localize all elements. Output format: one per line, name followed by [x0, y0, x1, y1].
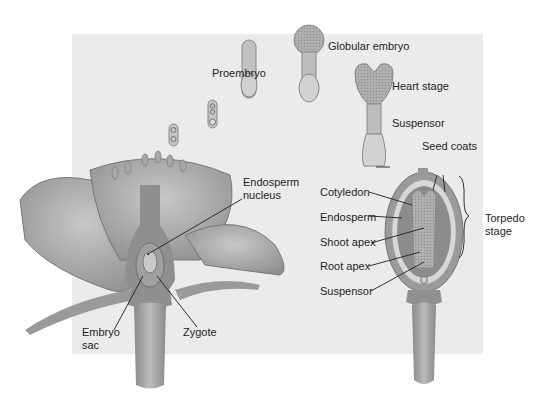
label-embryo-sac: Embryo sac [82, 326, 118, 352]
label-proembryo: Proembryo [212, 67, 266, 80]
label-suspensor-heart: Suspensor [392, 117, 445, 130]
label-shoot-apex: Shoot apex [320, 236, 376, 249]
label-heart-stage: Heart stage [392, 80, 449, 93]
label-root-apex: Root apex [320, 260, 370, 273]
label-suspensor-torpedo: Suspensor [320, 285, 373, 298]
label-torpedo-stage: Torpedo stage [485, 212, 533, 238]
label-seed-coats: Seed coats [422, 140, 477, 153]
proembryo-4cell [208, 100, 217, 128]
label-globular-embryo: Globular embryo [328, 40, 409, 53]
label-cotyledon: Cotyledon [320, 186, 370, 199]
label-zygote: Zygote [183, 326, 217, 339]
proembryo-2cell [169, 124, 178, 146]
label-endosperm-nucleus: Endosperm nucleus [243, 176, 303, 202]
heart-stage-embryo [355, 64, 393, 166]
label-endosperm: Endosperm [320, 211, 376, 224]
globular-embryo [294, 25, 324, 102]
